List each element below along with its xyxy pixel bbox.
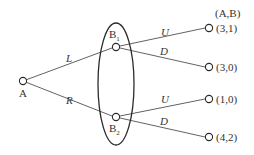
payoff-2: (3,0): [216, 61, 237, 74]
node-B2: [112, 113, 119, 120]
payoff-3: (1,0): [216, 93, 237, 106]
payoff-header: (A,B): [215, 7, 241, 20]
edge-label-B1-D: D: [159, 45, 168, 57]
edge-label-B1-U: U: [161, 26, 170, 38]
payoff-4: (4,2): [216, 131, 237, 144]
terminal-node-4: [205, 133, 212, 140]
node-B1: [112, 43, 119, 50]
label-B2-letter: B: [109, 122, 116, 134]
edge-label-B2-U: U: [161, 93, 170, 105]
label-B1-subscript: 1: [116, 35, 120, 43]
edge-label-B2-D: D: [159, 115, 168, 127]
label-A: A: [19, 87, 27, 99]
terminal-node-1: [205, 24, 212, 31]
edge-label-R: R: [65, 94, 73, 106]
edge-label-L: L: [65, 52, 72, 64]
label-B2: B2: [109, 122, 120, 137]
terminal-node-2: [205, 63, 212, 70]
payoff-1: (3,1): [216, 22, 237, 35]
node-A: [19, 77, 26, 84]
label-B2-subscript: 2: [116, 129, 120, 137]
label-B1: B1: [109, 28, 120, 43]
game-tree-diagram: A B1 B2 L R U D U D (A,B) (3,1) (3,0) (1…: [0, 0, 254, 155]
terminal-node-3: [205, 95, 212, 102]
label-B1-letter: B: [109, 28, 116, 40]
